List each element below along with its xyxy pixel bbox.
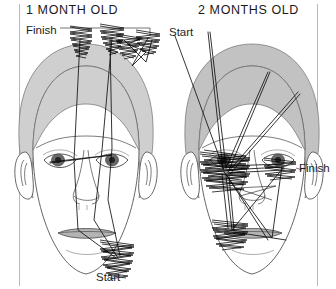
one-month-head — [15, 44, 157, 274]
right-pupil — [109, 157, 115, 163]
scanning-pattern-figure: 1 MONTH OLD Finish Start — [0, 0, 336, 289]
right-ear — [139, 152, 158, 199]
panel-one-month: 1 MONTH OLD Finish Start — [15, 3, 160, 283]
left-ear — [15, 152, 34, 199]
left-ear-right-face — [181, 152, 200, 199]
two-months-start-label: Start — [169, 26, 194, 38]
two-months-head — [181, 44, 323, 274]
right-ear-right-face — [305, 152, 324, 199]
one-month-panel-title: 1 MONTH OLD — [26, 3, 118, 17]
two-months-panel-title: 2 MONTHS OLD — [198, 3, 299, 17]
panel-two-months: 2 MONTHS OLD Start Finish — [169, 3, 330, 274]
two-months-finish-label: Finish — [299, 162, 330, 174]
one-month-start-label: Start — [96, 271, 121, 283]
fixation-hairline-right — [136, 30, 160, 55]
one-month-finish-label: Finish — [26, 24, 57, 36]
